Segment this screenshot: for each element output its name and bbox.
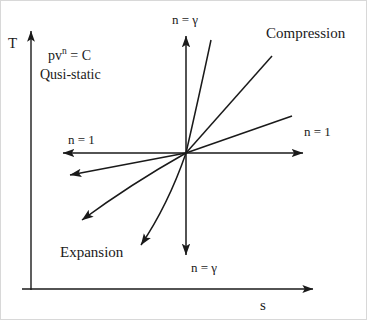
x-axis-label: s (260, 298, 266, 313)
curve-compression-gamma (186, 40, 211, 153)
compression-region-label: Compression (266, 26, 345, 41)
curve-label-left-isothermal: n = 1 (68, 133, 95, 146)
ts-diagram-figure: T s pvn = C Qusi-static Compression Expa… (0, 0, 368, 321)
curve-label-top-gamma: n = γ (172, 13, 198, 26)
curve-expansion-polytropic (70, 153, 186, 175)
process-type-label: Qusi-static (40, 68, 101, 82)
curve-label-bottom-gamma: n = γ (191, 261, 217, 274)
curve-label-right-isothermal: n = 1 (304, 125, 331, 138)
polytropic-relation-label: pvn = C (48, 47, 91, 63)
expansion-region-label: Expansion (60, 245, 123, 260)
relation-prefix: pv (48, 48, 62, 63)
relation-suffix: = C (67, 48, 91, 63)
y-axis-label: T (8, 36, 17, 51)
